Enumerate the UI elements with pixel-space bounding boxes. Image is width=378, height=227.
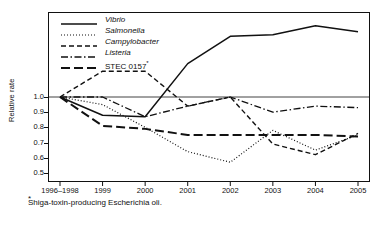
series-line-campylobacter <box>60 71 358 154</box>
legend-label: STEC 0157* <box>105 58 149 72</box>
legend-item-stec-0157: STEC 0157* <box>60 59 200 70</box>
legend-item-campylobacter: Campylobacter <box>60 36 200 47</box>
legend-label: Vibrio <box>105 15 125 25</box>
legend-key-swatch <box>60 48 98 58</box>
footnote-superscript: * <box>146 60 148 66</box>
legend-item-salmonella: Salmonella <box>60 25 200 36</box>
series-line-stec-0157 <box>60 97 358 136</box>
legend-key-swatch <box>60 37 98 47</box>
legend-key-swatch <box>60 59 98 69</box>
legend-key-swatch <box>60 26 98 36</box>
x-tick-label: 2005 <box>350 186 367 195</box>
x-tick-label: 2000 <box>137 186 154 195</box>
legend-label: Campylobacter <box>105 37 159 47</box>
footnote-text: Shiga-toxin-producing Escherichia oli. <box>28 198 162 207</box>
x-tick-label: 2004 <box>307 186 324 195</box>
x-tick-label: 2002 <box>222 186 239 195</box>
legend: VibrioSalmonellaCampylobacterListeriaSTE… <box>60 14 200 70</box>
x-tick-label: 1996–1998 <box>41 186 79 195</box>
legend-key-swatch <box>60 15 98 25</box>
legend-label: Salmonella <box>105 26 145 36</box>
x-tick-label: 2003 <box>265 186 282 195</box>
x-tick-label: 2001 <box>179 186 196 195</box>
figure-relative-rate-chart: Relative rate 0.50.60.70.80.91.0 VibrioS… <box>0 0 378 227</box>
x-axis-tick-labels: 1996–19981999200020012002200320042005 <box>0 186 378 198</box>
series-line-listeria <box>60 97 358 117</box>
legend-item-vibrio: Vibrio <box>60 14 200 25</box>
x-tick-label: 1999 <box>94 186 111 195</box>
